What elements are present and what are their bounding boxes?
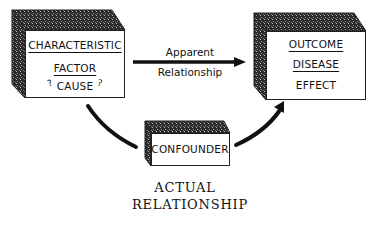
effect-label-outcome: OUTCOME: [289, 38, 343, 50]
cause-label-cause: CAUSE: [57, 80, 94, 92]
apparent-label: Apparent: [166, 46, 214, 58]
relationship-label: Relationship: [158, 66, 222, 78]
caption-relationship: RELATIONSHIP: [132, 197, 248, 213]
cause-label-factor: FACTOR: [54, 62, 97, 74]
effect-label-effect: EFFECT: [296, 79, 336, 91]
confounder-to-cause-curve: [88, 106, 136, 147]
confounder-label: CONFOUNDER: [151, 143, 228, 155]
effect-label-disease: DISEASE: [293, 58, 339, 70]
cause-label-characteristic: CHARACTERISTIC: [28, 39, 121, 51]
confounder-to-effect-arrow: [236, 101, 284, 145]
caption-actual: ACTUAL: [154, 180, 215, 196]
